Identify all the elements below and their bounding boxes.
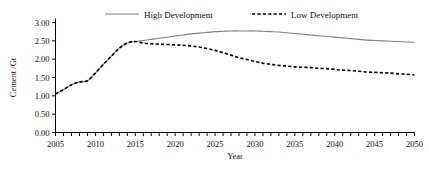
y-tick-label: 0.50 [35,109,50,119]
y-tick-label: 0.00 [35,128,50,138]
legend-label-1: High Development [144,10,213,20]
y-tick-label: 3.00 [35,18,50,28]
y-tick-label: 2.00 [35,54,50,64]
x-tick-label: 2045 [366,139,383,149]
x-tick-label: 2010 [87,139,104,149]
x-tick-label: 2025 [207,139,224,149]
x-tick-label: 2015 [127,139,144,149]
cement-projection-chart: 0.000.501.001.502.002.503.00200520102015… [0,0,429,173]
legend-label-2: Low Development [291,10,359,20]
y-tick-label: 1.50 [35,73,50,83]
series-line-1 [56,31,415,94]
x-tick-label: 2005 [47,139,64,149]
y-axis-title: Cement /Gt [8,57,18,97]
series-line-2 [56,42,415,94]
x-tick-label: 2030 [246,139,263,149]
y-tick-label: 2.50 [35,36,50,46]
x-tick-label: 2035 [286,139,303,149]
x-tick-label: 2050 [406,139,423,149]
x-axis-title: Year [227,151,243,161]
y-tick-label: 1.00 [35,91,50,101]
x-tick-label: 2020 [167,139,184,149]
x-tick-label: 2040 [326,139,343,149]
chart-canvas: 0.000.501.001.502.002.503.00200520102015… [0,0,429,173]
